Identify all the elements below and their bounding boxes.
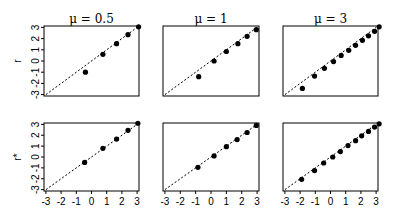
data-point [338,149,343,154]
data-point [359,133,364,138]
panel-title: μ = 0.5 [69,12,114,26]
x-tick-label: 2 [239,196,245,207]
data-point [372,124,377,129]
y-tick-label: 3 [30,24,41,30]
x-tick-label: -2 [296,196,305,207]
data-point [244,34,249,39]
y-axis-label: r* [12,153,23,160]
data-point [372,29,377,34]
data-point [254,123,259,128]
x-tick-label: -2 [176,196,185,207]
data-point [135,121,140,126]
x-tick-label: 0 [208,196,214,207]
data-point [377,121,382,126]
panel-1: μ = 0.5-3-2-10123r [12,12,141,99]
data-point [377,24,382,29]
data-point [345,143,350,148]
data-point [366,33,371,38]
panel-5: -3-2-10123 [160,123,260,207]
panel-title: μ = 3 [314,12,347,26]
data-point [114,41,119,46]
x-tick-label: 1 [104,196,110,207]
data-point [211,153,216,158]
data-point [83,70,88,75]
data-point [211,58,216,63]
y-tick-label: 0 [30,58,41,64]
data-point [100,146,105,151]
data-point [136,24,141,29]
data-point [312,74,317,79]
data-point [114,136,119,141]
scatter-grid-chart: μ = 0.5-3-2-10123rμ = 1μ = 3-3-2-10123r*… [0,0,399,219]
data-point [300,86,305,91]
x-tick-label: 3 [373,196,379,207]
y-tick-label: -2 [30,79,41,88]
x-tick-label: -3 [41,196,50,207]
y-tick-label: -2 [30,174,41,183]
data-point [321,160,326,165]
data-point [100,52,105,57]
data-point [346,48,351,53]
panel-title: μ = 1 [194,12,227,26]
x-tick-label: 1 [224,196,230,207]
data-point [125,128,130,133]
data-point [360,38,365,43]
y-tick-label: 2 [30,132,41,138]
x-tick-label: -1 [191,196,200,207]
y-tick-label: 2 [30,35,41,41]
x-tick-label: -3 [160,196,169,207]
data-point [254,27,259,32]
y-tick-label: 3 [30,121,41,127]
x-tick-label: -1 [72,196,81,207]
y-axis-label: r [12,59,23,63]
reference-line [285,27,376,94]
y-tick-label: -1 [30,163,41,172]
data-point [244,130,249,135]
data-point [331,59,336,64]
data-point [330,154,335,159]
x-tick-label: 2 [358,196,364,207]
y-tick-label: 1 [30,143,41,149]
panel-3: μ = 3 [283,12,382,96]
reference-line [46,124,137,189]
x-tick-label: 2 [119,196,125,207]
data-point [353,43,358,48]
data-point [339,53,344,58]
data-point [322,66,327,71]
data-point [235,41,240,46]
y-tick-label: 0 [30,154,41,160]
x-tick-label: -3 [280,196,289,207]
data-point [196,74,201,79]
panel-6: -3-2-10123 [280,121,381,207]
reference-line [165,27,257,94]
reference-line [46,27,137,94]
x-tick-label: 0 [89,196,95,207]
data-point [125,32,130,37]
x-tick-label: 3 [254,196,260,207]
data-point [235,137,240,142]
y-tick-label: -3 [30,185,41,194]
data-point [312,168,317,173]
y-tick-label: 1 [30,47,41,53]
data-point [82,160,87,165]
x-tick-label: -1 [311,196,320,207]
y-tick-label: -3 [30,90,41,99]
data-point [366,129,371,134]
x-tick-label: 1 [343,196,349,207]
data-point [224,144,229,149]
panel-2: μ = 1 [163,12,259,96]
reference-line [165,124,257,189]
data-point [224,49,229,54]
x-tick-label: 3 [134,196,140,207]
x-tick-label: -2 [57,196,66,207]
data-point [353,138,358,143]
x-tick-label: 0 [328,196,334,207]
y-tick-label: -1 [30,67,41,76]
data-point [195,165,200,170]
data-point [299,177,304,182]
panel-4: -3-2-10123r*-3-2-10123 [12,121,140,207]
